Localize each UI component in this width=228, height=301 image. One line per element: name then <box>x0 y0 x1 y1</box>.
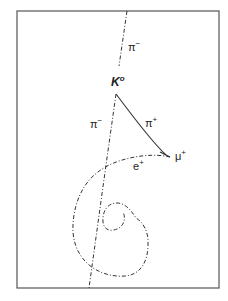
track-diagram-svg <box>0 0 228 301</box>
track-diagram: π− Ko π− π+ μ+ e+ <box>0 0 228 301</box>
pi-plus-label: π+ <box>145 118 157 129</box>
pi-minus-incoming-track <box>119 11 127 66</box>
mu-plus-label: μ+ <box>175 151 186 162</box>
positron-spiral-track <box>73 155 170 276</box>
chamber-frame <box>17 11 219 288</box>
pi-minus-top-label: π− <box>128 42 140 53</box>
pi-plus-track <box>116 94 166 155</box>
k0-label: Ko <box>111 76 125 88</box>
e-plus-label: e+ <box>133 161 144 172</box>
pi-minus-lower-label: π− <box>90 119 102 130</box>
